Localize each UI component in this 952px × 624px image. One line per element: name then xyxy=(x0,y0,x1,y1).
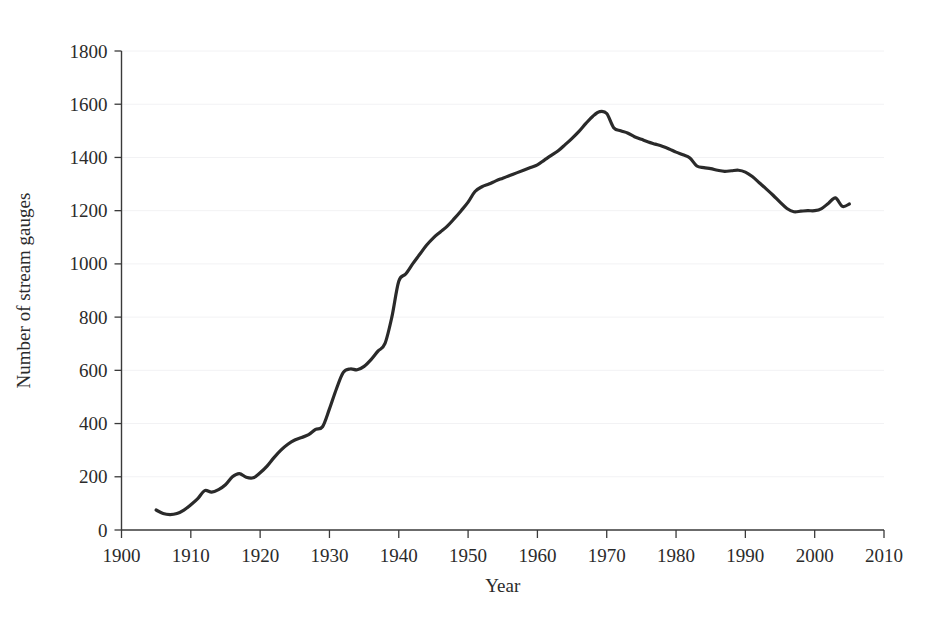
x-axis-tick-label: 1980 xyxy=(657,545,695,566)
y-axis-tick-label: 1200 xyxy=(70,200,108,221)
y-axis-tick-label: 1600 xyxy=(70,94,108,115)
y-axis-tick-label: 0 xyxy=(98,520,108,541)
y-axis-tick-label: 1800 xyxy=(70,41,108,62)
x-axis-tick-label: 1940 xyxy=(380,545,418,566)
x-axis-tick-label: 1960 xyxy=(518,545,556,566)
y-axis-tick-label: 1400 xyxy=(70,147,108,168)
gridlines-group xyxy=(122,51,885,477)
x-axis-title: Year xyxy=(485,575,521,596)
y-axis-tick-labels-group: 020040060080010001200140016001800 xyxy=(70,41,108,541)
x-axis-tick-labels-group: 1900191019201930194019501960197019801990… xyxy=(103,545,904,566)
x-axis-tick-label: 1970 xyxy=(588,545,626,566)
y-axis-tick-label: 600 xyxy=(79,360,108,381)
x-axis-ticks-group xyxy=(122,530,885,538)
x-axis-tick-label: 1900 xyxy=(103,545,141,566)
x-axis-tick-label: 1920 xyxy=(241,545,279,566)
chart-figure: 020040060080010001200140016001800 190019… xyxy=(0,0,952,624)
y-axis-ticks-group xyxy=(115,51,122,530)
y-axis-tick-label: 1000 xyxy=(70,253,108,274)
axes-group xyxy=(122,51,885,530)
x-axis-tick-label: 2010 xyxy=(865,545,903,566)
x-axis-tick-label: 2000 xyxy=(796,545,834,566)
x-axis-tick-label: 1950 xyxy=(449,545,487,566)
data-series-line xyxy=(156,111,849,514)
y-axis-title: Number of stream gauges xyxy=(13,193,34,389)
x-axis-tick-label: 1990 xyxy=(726,545,764,566)
line-chart-plot: 020040060080010001200140016001800 190019… xyxy=(0,0,952,624)
y-axis-tick-label: 400 xyxy=(79,413,108,434)
y-axis-tick-label: 200 xyxy=(79,466,108,487)
x-axis-tick-label: 1910 xyxy=(172,545,210,566)
y-axis-tick-label: 800 xyxy=(79,307,108,328)
x-axis-tick-label: 1930 xyxy=(310,545,348,566)
